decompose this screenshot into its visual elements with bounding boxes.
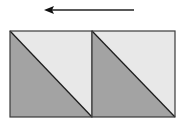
square-left [10, 31, 92, 117]
square-right [92, 31, 175, 117]
diagram-canvas [0, 0, 188, 131]
diagram-svg [0, 0, 188, 131]
left-arrow-icon [44, 6, 134, 14]
